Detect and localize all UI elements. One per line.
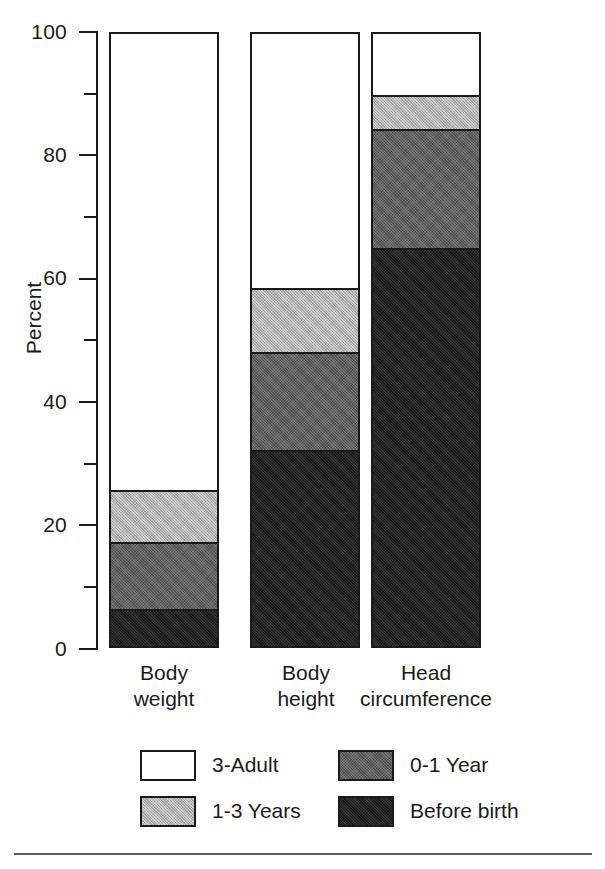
- y-tick-40: [79, 401, 98, 403]
- legend-label-3-adult: 3-Adult: [212, 753, 279, 777]
- y-tick-80: [79, 154, 98, 156]
- segment-head-circumference-before-birth: [373, 248, 479, 646]
- legend-label-0-1-year: 0-1 Year: [410, 753, 488, 777]
- y-tick-label-40: 40: [43, 391, 67, 412]
- segment-head-circumference-3-adult: [373, 34, 479, 95]
- plot-area: [103, 32, 488, 648]
- dark-gray-swatch: [338, 750, 394, 781]
- y-tick-100: [79, 31, 98, 33]
- bar-body-weight: [109, 32, 219, 648]
- bar-body-height: [250, 32, 360, 648]
- y-tick-70: [84, 216, 98, 218]
- legend-row-2: 1-3 Years Before birth: [140, 788, 540, 834]
- legend-item-1-3-years: 1-3 Years: [140, 796, 338, 827]
- legend-row-1: 3-Adult 0-1 Year: [140, 742, 540, 788]
- segment-body-height-3-adult: [252, 34, 358, 288]
- y-axis-title: Percent: [22, 248, 46, 388]
- segment-body-weight-3-adult: [111, 34, 217, 490]
- segment-body-height-0-1-year: [252, 352, 358, 450]
- bottom-divider-rule: [14, 853, 592, 855]
- bar-head-circumference: [371, 32, 481, 648]
- segment-body-height-before-birth: [252, 450, 358, 646]
- segment-head-circumference-0-1-year: [373, 129, 479, 248]
- y-tick-30: [84, 463, 98, 465]
- legend-item-before-birth: Before birth: [338, 796, 536, 827]
- y-tick-20: [79, 524, 98, 526]
- light-gray-swatch: [140, 796, 196, 827]
- y-tick-label-20: 20: [43, 514, 67, 535]
- white-swatch: [140, 750, 196, 781]
- legend-item-0-1-year: 0-1 Year: [338, 750, 536, 781]
- category-label-head-circumference-line1: Head: [401, 661, 451, 684]
- chart-legend: 3-Adult 0-1 Year 1-3 Years Before birth: [140, 742, 540, 834]
- segment-head-circumference-1-3-years: [373, 95, 479, 129]
- stacked-bar-chart-figure: 100 80 60 40 20 0 Percent Body weight: [0, 0, 605, 869]
- segment-body-weight-1-3-years: [111, 490, 217, 542]
- category-label-body-weight-line1: Body: [140, 661, 188, 684]
- legend-label-1-3-years: 1-3 Years: [212, 799, 301, 823]
- y-tick-label-60: 60: [43, 267, 67, 288]
- legend-item-3-adult: 3-Adult: [140, 750, 338, 781]
- y-tick-50: [84, 339, 98, 341]
- y-tick-0: [79, 648, 98, 650]
- black-swatch: [338, 796, 394, 827]
- y-tick-60: [79, 278, 98, 280]
- y-tick-90: [84, 93, 98, 95]
- segment-body-weight-before-birth: [111, 609, 217, 646]
- y-tick-label-100: 100: [31, 21, 67, 42]
- segment-body-height-1-3-years: [252, 288, 358, 352]
- legend-label-before-birth: Before birth: [410, 799, 519, 823]
- y-tick-label-80: 80: [43, 144, 67, 165]
- y-tick-label-0: 0: [55, 638, 67, 659]
- category-label-head-circumference: Head circumference: [331, 660, 521, 712]
- category-label-body-height-line1: Body: [282, 661, 330, 684]
- y-tick-10: [84, 586, 98, 588]
- segment-body-weight-0-1-year: [111, 542, 217, 609]
- category-label-head-circumference-line2: circumference: [331, 686, 521, 712]
